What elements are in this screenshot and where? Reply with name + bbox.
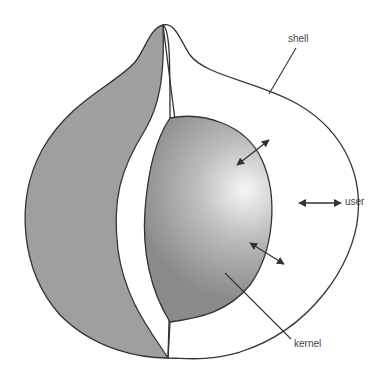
shell-label: shell [288, 33, 309, 44]
shell-kernel-diagram [0, 0, 382, 376]
user-label: user [345, 196, 364, 207]
shell-leader-line [269, 48, 296, 94]
kernel-label: kernel [294, 338, 321, 349]
